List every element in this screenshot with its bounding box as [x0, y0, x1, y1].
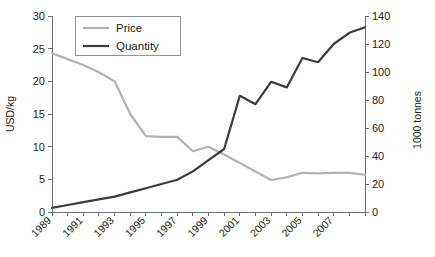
x-axis-tick-label: 2007 [310, 214, 335, 239]
x-axis-tick-label: 1993 [91, 214, 116, 239]
right-axis-tick-label: 120 [372, 38, 390, 50]
x-axis-tick-label: 1989 [28, 214, 53, 239]
right-axis-tick-label: 100 [372, 66, 390, 78]
left-axis-tick-label: 10 [33, 141, 45, 153]
left-axis-tick-label: 15 [33, 108, 45, 120]
left-axis-title: USD/kg [4, 96, 16, 132]
right-axis-tick-label: 40 [372, 150, 384, 162]
right-axis-tick-label: 140 [372, 10, 390, 22]
x-axis-tick-label: 2003 [248, 214, 273, 239]
right-axis-tick-label: 80 [372, 94, 384, 106]
x-axis-tick-label: 2001 [216, 214, 241, 239]
left-axis-tick-label: 30 [33, 10, 45, 22]
x-axis-tick-label: 2005 [279, 214, 304, 239]
legend-label-quantity: Quantity [116, 40, 159, 52]
x-axis-tick-label: 1991 [60, 214, 85, 239]
left-axis-tick-label: 25 [33, 43, 45, 55]
right-axis-tick-label: 0 [372, 206, 378, 218]
line-chart: 051015202530USD/kg0204060801001201401000… [0, 0, 435, 257]
chart-container: 051015202530USD/kg0204060801001201401000… [0, 0, 435, 257]
right-axis-title: 1000 tonnes [411, 91, 423, 149]
left-axis-tick-label: 5 [39, 173, 45, 185]
x-axis-tick-label: 1999 [185, 214, 210, 239]
legend-label-price: Price [116, 22, 142, 34]
x-axis-tick-label: 1997 [154, 214, 179, 239]
x-axis-tick-label: 1995 [122, 214, 147, 239]
right-axis-tick-label: 20 [372, 178, 384, 190]
left-axis-tick-label: 20 [33, 75, 45, 87]
right-axis-tick-label: 60 [372, 122, 384, 134]
